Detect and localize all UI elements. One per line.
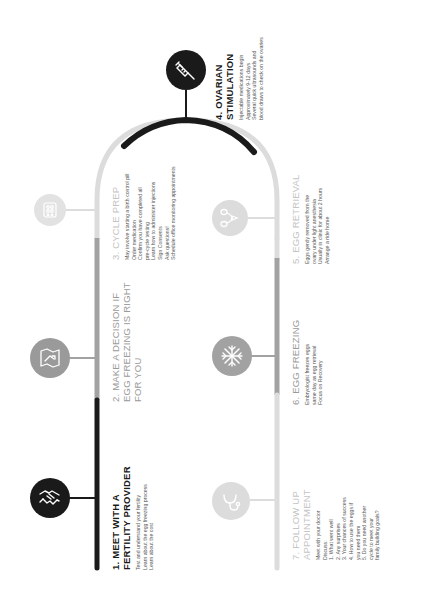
step-2-title-line3: FOR YOU [132, 282, 143, 402]
handshake-icon [37, 485, 63, 511]
step-1-item: Learn about the egg freezing process [142, 466, 149, 570]
step-3-node [34, 194, 66, 226]
calendar-pills-icon [40, 200, 60, 220]
step-4-node [166, 50, 206, 90]
step-5-title: 5. EGG RETRIEVAL [290, 174, 301, 264]
step-7-item: 2. Any surprises [335, 489, 342, 560]
step-1-node [30, 478, 70, 518]
step-4-title: 4. OVARIAN STIMULATION [213, 37, 235, 120]
step-6-node [212, 336, 252, 376]
step-2-title-line1: 2. MAKE A DECISION IF [110, 282, 121, 402]
step-7-items: Meet with your doctor Discuss: 1. What w… [315, 489, 381, 560]
step-7-text: 7. FOLLOW UP APPOINTMENT Meet with your … [290, 489, 381, 560]
step-3-items: May involve starting a birth control pil… [124, 166, 177, 260]
ovaries-icon [218, 206, 242, 230]
step-2-title: 2. MAKE A DECISION IF EGG FREEZING IS RI… [110, 282, 143, 402]
step-7-node [212, 482, 250, 520]
step-5-text: 5. EGG RETRIEVAL Eggs gently removed fro… [290, 174, 330, 264]
step-3-item: Sign Consents [157, 166, 164, 260]
step-3-item: pre-cycle testing [144, 166, 151, 260]
step-2-text: 2. MAKE A DECISION IF EGG FREEZING IS RI… [110, 282, 143, 402]
syringe-icon [173, 57, 199, 83]
step-1-title-line1: 1. MEET WITH A [110, 466, 121, 570]
step-6-item: same day as egg retrieval [311, 320, 318, 405]
step-7-item: 5. Do you need another [361, 489, 368, 560]
step-7-title-line2: APPOINTMENT [301, 489, 312, 560]
step-6-title: 6. EGG FREEZING [290, 320, 301, 405]
stethoscope-icon [219, 489, 243, 513]
step-1-items: Test and understand your fertility Learn… [135, 466, 155, 570]
step-3-item: Learn how to administer injections [150, 166, 157, 260]
step-1-title-line2: FERTILITY PROVIDER [121, 466, 132, 570]
step-3-item: Order medication [131, 166, 138, 260]
step-6-items: Embryologist freezes eggs same day as eg… [304, 320, 324, 405]
step-4-text: 4. OVARIAN STIMULATION Injectable medica… [213, 37, 264, 120]
step-4-item: Several quick ultrasounds and [251, 37, 258, 120]
step-1-title: 1. MEET WITH A FERTILITY PROVIDER [110, 466, 132, 570]
step-6-text: 6. EGG FREEZING Embryologist freezes egg… [290, 320, 324, 405]
step-5-item: Arrange a ride home [324, 174, 331, 264]
decision-map-icon [37, 345, 63, 371]
step-7-item: you need them [355, 489, 362, 560]
step-4-title-line2: STIMULATION [224, 37, 235, 120]
step-4-item: blood draws to check on the ovaries [258, 37, 265, 120]
step-1-item: Learn about the cost [148, 466, 155, 570]
step-5-node [212, 200, 248, 236]
step-7-item: family building goals? [374, 489, 381, 560]
step-7-item: 3. Your chances of success [341, 489, 348, 560]
step-3-item: Confirm you have completed all [137, 166, 144, 260]
step-4-item: Approximately 9-12 days [245, 37, 252, 120]
step-7-item: 1. What went well [328, 489, 335, 560]
step-7-title: 7. FOLLOW UP APPOINTMENT [290, 489, 312, 560]
step-3-title: 3. CYCLE PREP [110, 166, 121, 260]
egg-freezing-timeline-infographic: 1. MEET WITH A FERTILITY PROVIDER Test a… [0, 0, 426, 608]
step-3-item: May involve starting a birth control pil… [124, 166, 131, 260]
step-6-item: Focus on Recovery [317, 320, 324, 405]
step-4-title-line1: 4. OVARIAN [213, 37, 224, 120]
step-5-item: ovary under light anesthesia [311, 174, 318, 264]
step-2-node [30, 338, 70, 378]
step-3-text: 3. CYCLE PREP May involve starting a bir… [110, 166, 177, 260]
step-1-item: Test and understand your fertility [135, 466, 142, 570]
step-7-item: 4. How to use the eggs if [348, 489, 355, 560]
step-1-text: 1. MEET WITH A FERTILITY PROVIDER Test a… [110, 466, 155, 570]
step-3-item: Ask questions! [164, 166, 171, 260]
step-5-items: Eggs gently removed from the ovary under… [304, 174, 330, 264]
step-3-item: Schedule office monitoring appointments [170, 166, 177, 260]
step-7-item: Discuss: [322, 489, 329, 560]
step-2-title-line2: EGG FREEZING IS RIGHT [121, 282, 132, 402]
step-5-item: Usually in clinic for about 2 hours [317, 174, 324, 264]
step-6-item: Embryologist freezes eggs [304, 320, 311, 405]
step-7-item: cycle to meet your [368, 489, 375, 560]
step-5-item: Eggs gently removed from the [304, 174, 311, 264]
snowflake-icon [219, 343, 245, 369]
step-4-items: Injectable medications begin Approximate… [238, 37, 264, 120]
step-4-item: Injectable medications begin [238, 37, 245, 120]
step-7-title-line1: 7. FOLLOW UP [290, 489, 301, 560]
step-7-item: Meet with your doctor [315, 489, 322, 560]
